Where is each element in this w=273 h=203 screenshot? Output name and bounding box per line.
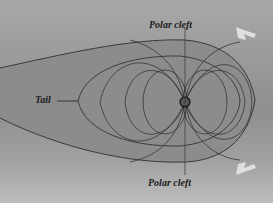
- solar-wind-arrow-top-icon: [236, 27, 256, 40]
- polar-cleft-top-label: Polar cleft: [149, 19, 192, 30]
- magnetosphere-diagram: Polar cleft Polar cleft Tail: [0, 0, 273, 203]
- solar-wind-arrow-bottom-icon: [236, 162, 256, 175]
- polar-cleft-bottom-label: Polar cleft: [148, 177, 191, 188]
- tail-label: Tail: [35, 94, 51, 105]
